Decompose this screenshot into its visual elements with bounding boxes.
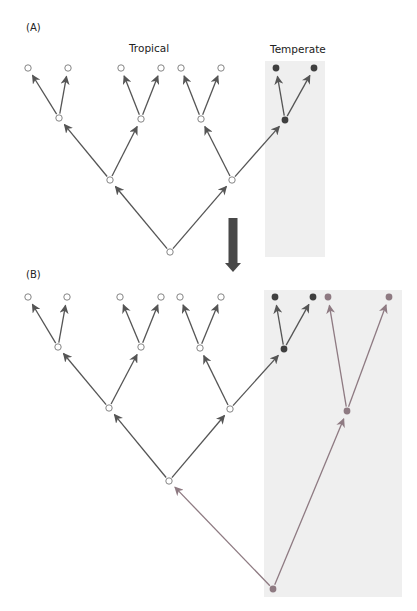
temperate-node — [273, 65, 280, 72]
transition-arrow — [225, 218, 241, 272]
panel-b-label: (B) — [26, 269, 41, 280]
tropical-node — [106, 405, 112, 411]
tropical-node — [197, 345, 203, 351]
tropical-region-label: Tropical — [129, 42, 169, 54]
tropical-node — [64, 294, 70, 300]
lineage-edge — [124, 76, 139, 115]
panel-a-label: (A) — [26, 22, 41, 33]
lineage-edge — [175, 487, 270, 586]
lineage-edge — [64, 125, 107, 177]
temperate-region-label: Temperate — [270, 43, 326, 55]
lineage-edge — [115, 187, 167, 249]
lineage-edge — [143, 305, 158, 343]
lineage-edge — [60, 76, 67, 113]
tropical-node — [227, 406, 233, 412]
lineage-edge — [32, 304, 55, 343]
tropical-node — [65, 65, 71, 71]
tropical-node — [158, 294, 164, 300]
tropical-node — [178, 65, 184, 71]
lineage-edge — [123, 305, 139, 343]
tropical-node — [138, 116, 144, 122]
lineage-edge — [111, 355, 137, 404]
lineage-edge — [63, 354, 106, 405]
temperate-node — [281, 346, 288, 353]
tropical-node — [166, 478, 172, 484]
lineage-edge — [184, 76, 199, 115]
lineage-edge — [204, 356, 228, 405]
tropical-node — [118, 65, 124, 71]
tropical-node — [177, 294, 183, 300]
new-lineage-node — [386, 294, 393, 301]
new-lineage-node — [270, 586, 277, 593]
lineage-edge — [112, 127, 137, 176]
tropical-node — [56, 115, 62, 121]
temperate-node — [311, 65, 318, 72]
down-arrow-shaft — [229, 218, 238, 264]
lineage-edge — [114, 415, 166, 478]
panel-a-temperate-shade — [265, 61, 325, 257]
lineage-edge — [59, 305, 66, 342]
tropical-node — [107, 177, 113, 183]
tropical-node — [55, 344, 61, 350]
tropical-node — [117, 294, 123, 300]
lineage-edge — [202, 305, 218, 344]
lineage-edge — [172, 415, 225, 477]
phylogeny-diagram — [0, 0, 417, 611]
tropical-node — [229, 177, 235, 183]
lineage-edge — [203, 76, 218, 115]
tropical-node — [25, 65, 31, 71]
lineage-edge — [32, 75, 56, 114]
lineage-edge — [173, 186, 227, 248]
temperate-node — [310, 294, 317, 301]
tropical-node — [198, 116, 204, 122]
temperate-node — [282, 117, 289, 124]
lineage-edge — [183, 305, 198, 344]
tropical-node — [218, 65, 224, 71]
tropical-node — [158, 65, 164, 71]
lineage-edge — [205, 127, 230, 176]
lineage-edge — [143, 76, 158, 115]
new-lineage-node — [325, 294, 332, 301]
down-arrow-icon — [225, 263, 241, 272]
tropical-node — [25, 294, 31, 300]
tropical-node — [167, 249, 173, 255]
tropical-node — [138, 344, 144, 350]
tropical-node — [218, 294, 224, 300]
temperate-node — [272, 294, 279, 301]
new-lineage-node — [344, 408, 351, 415]
